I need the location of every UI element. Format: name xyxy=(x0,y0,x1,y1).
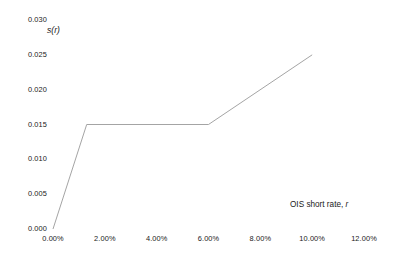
y-tick-label: 0.000 xyxy=(13,224,47,233)
y-tick-label: 0.030 xyxy=(13,15,47,24)
line-chart-plot xyxy=(0,0,396,257)
y-tick-label: 0.015 xyxy=(13,120,47,129)
x-tick-label: 2.00% xyxy=(81,234,129,243)
y-tick-label: 0.020 xyxy=(13,85,47,94)
x-tick-label: 6.00% xyxy=(185,234,233,243)
x-tick-label: 8.00% xyxy=(236,234,284,243)
series-line-s-of-r xyxy=(53,55,312,229)
x-tick-label: 4.00% xyxy=(133,234,181,243)
x-axis-title: OIS short rate, r xyxy=(290,200,348,209)
chart-figure: s(r) OIS short rate, r 0.0000.0050.0100.… xyxy=(0,0,396,257)
x-axis-title-variable: r xyxy=(346,200,349,209)
x-tick-label: 10.00% xyxy=(288,234,336,243)
y-tick-label: 0.025 xyxy=(13,50,47,59)
y-tick-label: 0.005 xyxy=(13,189,47,198)
y-axis-title: s(r) xyxy=(47,25,60,35)
x-tick-label: 12.00% xyxy=(340,234,388,243)
x-axis-title-prefix: OIS short rate, xyxy=(290,200,346,209)
x-tick-label: 0.00% xyxy=(29,234,77,243)
y-tick-label: 0.010 xyxy=(13,154,47,163)
